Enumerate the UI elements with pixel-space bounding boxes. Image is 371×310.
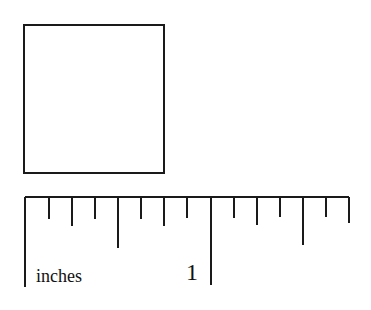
square-shape [24,25,164,173]
unit-label: inches [36,266,82,287]
inch-mark-label: 1 [186,259,198,286]
